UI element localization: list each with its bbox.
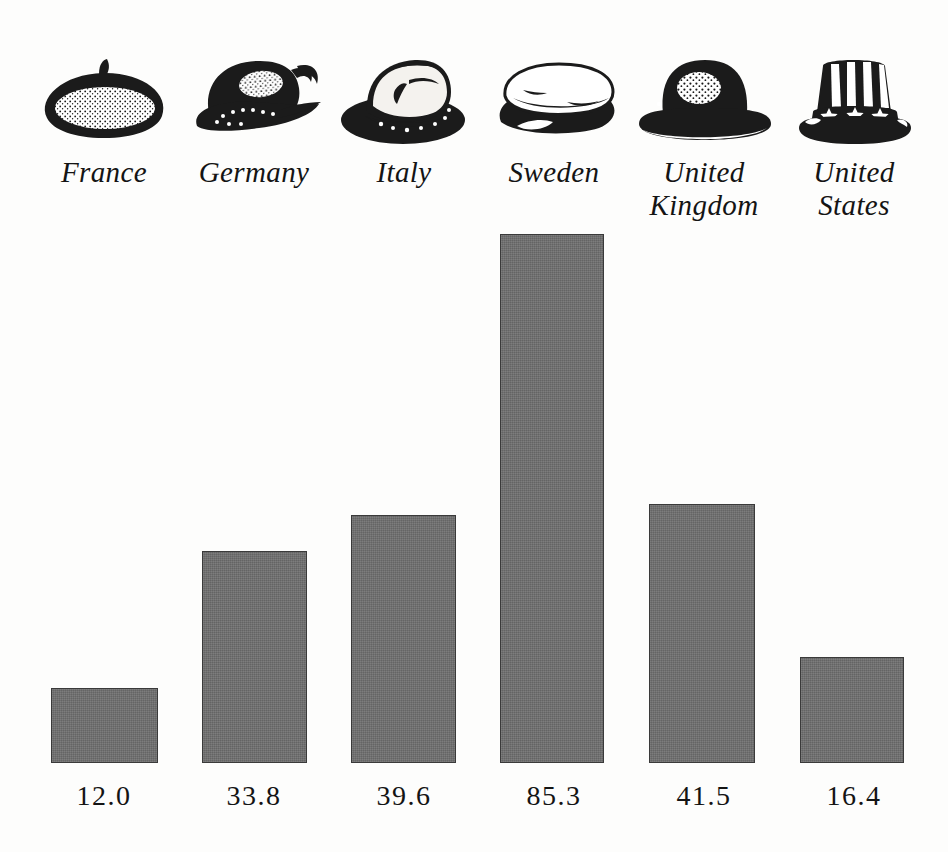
chart-column-sweden: Sweden 85.3	[475, 0, 633, 852]
country-label-line1: Sweden	[509, 156, 600, 188]
tyrolean-hat-icon	[175, 34, 333, 152]
uncle-sam-top-hat-icon	[775, 34, 933, 152]
beret-icon	[25, 34, 183, 152]
bowler-hat-icon	[625, 34, 783, 152]
bar-france	[51, 688, 158, 763]
country-label-line1: Germany	[199, 156, 310, 188]
country-label-line1: France	[61, 156, 147, 188]
chart-column-germany: Germany 33.8	[175, 0, 333, 852]
country-label-united-states: United States	[763, 156, 945, 222]
chart-column-italy: Italy 39.6	[325, 0, 483, 852]
bar-germany	[202, 551, 307, 763]
bar-chart: France 12.0	[0, 0, 948, 852]
student-cap-icon	[475, 34, 633, 152]
bar-united-states	[800, 657, 904, 763]
country-label-line1: United	[663, 156, 744, 188]
bar-italy	[351, 515, 456, 763]
fedora-icon	[325, 34, 483, 152]
bar-united-kingdom	[649, 504, 755, 763]
country-label-line2: States	[818, 189, 890, 221]
country-label-line2: Kingdom	[649, 189, 758, 221]
chart-column-france: France 12.0	[25, 0, 183, 852]
country-label-line1: United	[813, 156, 894, 188]
country-label-line1: Italy	[376, 156, 431, 188]
chart-column-united-states: United States 16.4	[775, 0, 933, 852]
bar-sweden	[500, 234, 604, 763]
value-label-united-states: 16.4	[763, 780, 945, 812]
chart-column-united-kingdom: United Kingdom 41.5	[625, 0, 783, 852]
